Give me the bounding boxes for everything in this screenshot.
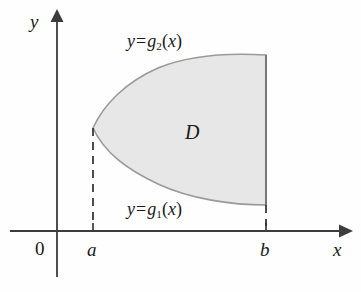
- origin-label: 0: [35, 239, 45, 258]
- lower-eq-arg: x: [168, 199, 176, 219]
- y-axis-arrowhead: [51, 9, 64, 22]
- lower-eq-lhs: y: [127, 199, 135, 219]
- figure-canvas: y x 0 a b D y=g2(x) y=g1(x): [0, 0, 361, 292]
- lower-eq-paren-close: ): [176, 199, 182, 219]
- upper-eq-operator: =: [135, 31, 147, 51]
- tick-label-b: b: [260, 240, 270, 259]
- x-axis-label: x: [333, 240, 341, 259]
- tick-label-a: a: [87, 240, 97, 259]
- x-axis-arrowhead: [339, 225, 353, 238]
- region-d-shape: [93, 54, 266, 205]
- upper-eq-lhs: y: [127, 31, 135, 51]
- lower-eq-function: g: [147, 199, 156, 219]
- upper-eq-paren-close: ): [176, 31, 182, 51]
- region-label-d: D: [185, 122, 199, 142]
- upper-eq-arg: x: [168, 31, 176, 51]
- lower-curve-equation: y=g1(x): [127, 200, 182, 220]
- y-axis-label: y: [30, 12, 38, 31]
- upper-curve-equation: y=g2(x): [127, 32, 182, 52]
- lower-eq-operator: =: [135, 199, 147, 219]
- upper-eq-function: g: [147, 31, 156, 51]
